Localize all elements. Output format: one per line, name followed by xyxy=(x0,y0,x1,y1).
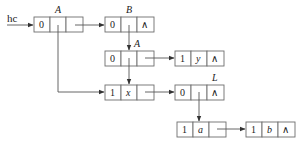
cell-tag: 0 xyxy=(110,53,115,64)
node-label: B xyxy=(126,4,132,15)
null-icon: ∧ xyxy=(141,19,148,30)
cell-atom: x xyxy=(125,87,131,98)
node-atom-a: 1 a xyxy=(177,122,226,137)
null-icon: ∧ xyxy=(282,124,289,135)
cell-tag: 1 xyxy=(180,53,185,64)
node-label: A xyxy=(54,4,62,15)
cell-tag: 0 xyxy=(180,87,185,98)
node-L: L 0 ∧ xyxy=(175,72,224,100)
null-icon: ∧ xyxy=(211,87,218,98)
node-atom-x: 1 x xyxy=(105,85,154,100)
cell-tag: 1 xyxy=(251,124,256,135)
node-A1: A 0 xyxy=(34,4,83,32)
cell-atom: a xyxy=(198,124,203,135)
edge-A1-X xyxy=(58,25,104,92)
head-pointer-label: hc xyxy=(7,12,18,24)
cell-atom: y xyxy=(195,53,201,64)
null-icon: ∧ xyxy=(211,53,218,64)
node-atom-b: 1 b ∧ xyxy=(246,122,295,137)
cell-tag: 0 xyxy=(39,19,44,30)
cell-tag: 1 xyxy=(182,124,187,135)
generalized-list-diagram: hc A 0 B 0 ∧ A 0 1 y ∧ 1 xyxy=(0,0,303,148)
node-label: L xyxy=(211,72,218,83)
node-label: A xyxy=(133,38,141,49)
cell-tag: 1 xyxy=(110,87,115,98)
node-atom-y: 1 y ∧ xyxy=(175,51,224,66)
node-A2: A 0 xyxy=(105,38,154,66)
node-B: B 0 ∧ xyxy=(105,4,154,32)
cell-atom: b xyxy=(267,124,272,135)
cell-tag: 0 xyxy=(110,19,115,30)
head-pointer: hc xyxy=(7,12,33,25)
